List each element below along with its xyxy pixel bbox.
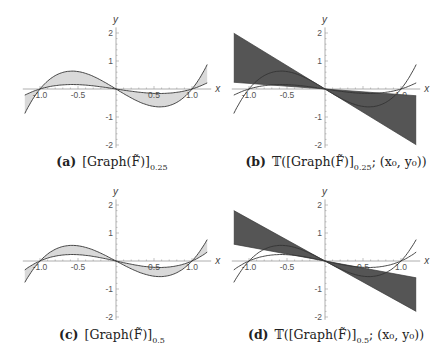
y-tick-label: 2 [317,200,322,210]
x-tick-label: -0.5 [71,90,86,100]
caption-b: (b)𝕋([Graph(F̃)]0.25; (x₀, y₀)) [224,154,448,172]
caption-d: (d)𝕋([Graph(F̃)]0.5; (x₀, y₀)) [224,327,448,345]
y-tick-label: -2 [314,312,322,322]
y-axis-label: y [321,186,328,197]
x-tick-label: 1.0 [395,262,407,272]
y-axis-label: y [112,186,119,197]
x-axis-label: x [423,83,430,94]
y-tick-label: -2 [105,312,113,322]
y-tick-label: -1 [105,112,113,122]
y-tick-label: -2 [105,140,113,150]
panel-a: -1.0-0.50.51.021-1-2xy (a)[Graph(F̃)]0.2… [0,0,224,181]
y-axis-label: y [321,14,328,25]
x-tick-label: 1.0 [186,262,198,272]
x-axis-label: x [214,255,221,266]
y-tick-label: 2 [317,28,322,38]
caption-a: (a)[Graph(F̃)]0.25 [0,154,224,172]
x-tick-label: 0.5 [148,90,160,100]
caption-c: (c)[Graph(F̃)]0.5 [0,327,224,345]
y-tick-label: 2 [108,28,113,38]
x-tick-label: -0.5 [71,262,86,272]
y-tick-label: 1 [108,228,113,238]
x-axis-label: x [423,255,430,266]
x-tick-label: -0.5 [280,262,295,272]
y-tick-label: 1 [317,228,322,238]
y-tick-label: -1 [314,112,322,122]
x-tick-label: 1.0 [186,90,198,100]
x-tick-label: -0.5 [280,90,295,100]
y-tick-label: 1 [108,56,113,66]
y-tick-label: -1 [314,284,322,294]
panel-c: -1.0-0.50.51.021-1-2xy (c)[Graph(F̃)]0.5 [0,181,224,362]
y-tick-label: 1 [317,56,322,66]
x-tick-label: -1.0 [242,90,257,100]
panel-b: -1.0-0.50.51.021-1-2xy (b)𝕋([Graph(F̃)]0… [224,0,448,181]
y-axis-label: y [112,14,119,25]
y-tick-label: -1 [105,284,113,294]
y-tick-label: -2 [314,140,322,150]
panel-d: -1.0-0.50.51.021-1-2xy (d)𝕋([Graph(F̃)]0… [224,181,448,362]
y-tick-label: 2 [108,200,113,210]
x-tick-label: -1.0 [33,90,48,100]
x-axis-label: x [214,83,221,94]
